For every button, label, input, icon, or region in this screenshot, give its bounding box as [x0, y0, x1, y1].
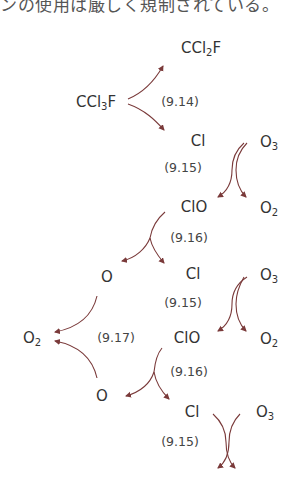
- species-ccl3f: CCl3F: [76, 93, 116, 111]
- species-o-1: O: [101, 268, 113, 286]
- species-cl-3: Cl: [185, 403, 200, 421]
- equation-label-9-15-b: (9.15): [164, 296, 202, 310]
- species-cl-1: Cl: [191, 132, 206, 150]
- arrow-ccl3f-to-ccl2f: [128, 66, 163, 99]
- species-cl-2: Cl: [186, 265, 201, 283]
- reaction-arrows: [0, 0, 299, 499]
- arrow-clo-to-o-a: [122, 212, 165, 261]
- arrow-o-to-o2-lower: [55, 341, 97, 378]
- arrow-clo-to-cl-a: [150, 238, 164, 263]
- species-o-2: O: [96, 387, 108, 405]
- equation-label-9-16-b: (9.16): [170, 365, 208, 379]
- arrow-o3-to-products-c: [213, 414, 235, 468]
- species-clo-2: ClO: [174, 329, 200, 347]
- arrow-clo-to-o-b: [126, 348, 162, 396]
- equation-label-9-16-a: (9.16): [170, 231, 208, 245]
- arrow-cl-to-clo-b: [218, 277, 247, 331]
- equation-label-9-17: (9.17): [97, 331, 135, 345]
- species-o2-2: O2: [260, 330, 278, 348]
- arrow-ccl3f-to-cl: [128, 104, 164, 130]
- species-ccl2f: CCl2F: [181, 39, 221, 57]
- equation-label-9-15-a: (9.15): [164, 161, 202, 175]
- species-o2-left: O2: [23, 329, 41, 347]
- species-o2-1: O2: [260, 199, 278, 217]
- species-clo-1: ClO: [181, 198, 207, 216]
- arrow-clo-to-cl-b: [154, 372, 169, 399]
- equation-label-9-14: (9.14): [161, 95, 199, 109]
- species-o3-1: O3: [260, 133, 278, 151]
- species-o3-3: O3: [256, 403, 274, 421]
- species-o3-2: O3: [260, 266, 278, 284]
- arrow-o-to-o2-upper: [55, 296, 97, 332]
- equation-label-9-15-c: (9.15): [161, 435, 199, 449]
